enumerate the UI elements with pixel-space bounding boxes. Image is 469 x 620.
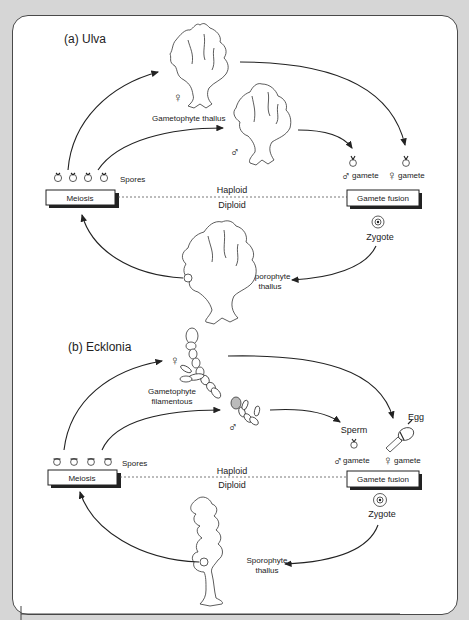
male-gamete-icon-ulva [350, 156, 357, 166]
female-symbol-ulva: ♀ [173, 90, 183, 105]
zygote-label-ulva: Zygote [366, 232, 394, 242]
sporophyte-label-ecklonia-1: Sporophyte [247, 556, 288, 565]
arrow-male-to-sperm [270, 410, 340, 423]
panel-ecklonia: (b) Ecklonia ♀ Gametophyte filamentous [48, 328, 424, 606]
spores-label-ecklonia: Spores [122, 459, 147, 468]
panel-ulva: (a) Ulva ♀ Gametophyte thallus ♂ Spores … [46, 24, 425, 324]
arrow-sporophyte-to-meiosis [82, 215, 183, 278]
sperm-icon [351, 439, 357, 448]
spores-ulva [54, 173, 107, 182]
meiosis-label-ecklonia: Meiosis [68, 474, 95, 483]
female-symbol-ecklonia: ♀ [170, 353, 180, 368]
male-gamete-label-ulva: gamete [352, 171, 379, 180]
sporangium-icon-ulva [184, 274, 192, 282]
sporophyte-thallus-icon-ulva [182, 221, 256, 324]
meiosis-label-ulva: Meiosis [66, 194, 93, 203]
gamete-fusion-label-ecklonia: Gamete fusion [357, 475, 409, 484]
spores-label-ulva: Spores [120, 175, 145, 184]
male-gamete-symbol-ulva: ♂ [341, 168, 351, 183]
arrow-zygote-to-sporophyte [292, 246, 376, 280]
sporophyte-thallus-icon-ecklonia [191, 497, 223, 606]
zygote-icon-ulva [372, 216, 384, 228]
male-gamete-symbol-ecklonia: ♂ [333, 453, 343, 468]
arrow-spore-to-female-ecklonia [64, 361, 162, 450]
haploid-label-ecklonia: Haploid [217, 466, 248, 476]
arrow-spore-to-female [68, 72, 158, 170]
arrow-zygote-to-sporophyte-ecklonia [285, 525, 378, 564]
sporophyte-label-ulva-2: thallus [258, 282, 281, 291]
haploid-label-ulva: Haploid [217, 185, 248, 195]
sperm-label: Sperm [341, 425, 368, 435]
gamete-fusion-label-ulva: Gamete fusion [357, 194, 409, 203]
zygote-label-ecklonia: Zygote [368, 509, 396, 519]
male-symbol-ulva: ♂ [230, 144, 240, 159]
zygote-icon-ecklonia [374, 494, 387, 507]
diploid-label-ecklonia: Diploid [218, 480, 246, 490]
spores-ecklonia [54, 459, 112, 466]
diploid-label-ulva: Diploid [218, 200, 246, 210]
male-symbol-ecklonia: ♂ [228, 419, 238, 434]
arrow-male-to-gamete [298, 130, 352, 148]
female-gamete-label-ecklonia: gamete [394, 456, 421, 465]
panel-title-ecklonia: (b) Ecklonia [68, 340, 132, 354]
gametophyte-label-ulva: Gametophyte thallus [152, 114, 225, 123]
panel-title-ulva: (a) Ulva [64, 32, 106, 46]
gametophyte-label-ecklonia-2: filamentous [152, 397, 193, 406]
male-gamete-label-ecklonia: gamete [343, 456, 370, 465]
arrow-spore-to-male [98, 128, 223, 170]
sporangium-icon-ecklonia [200, 558, 208, 566]
female-gamete-icon-ulva [403, 156, 410, 166]
arrow-spore-to-male-ecklonia [102, 410, 220, 450]
gametophyte-label-ecklonia-1: Gametophyte [148, 387, 197, 396]
arrow-female-to-egg [228, 356, 393, 418]
life-cycle-diagram: (a) Ulva ♀ Gametophyte thallus ♂ Spores … [0, 0, 469, 620]
arrow-sporophyte-to-meiosis-ecklonia [80, 492, 199, 562]
female-gamete-symbol-ecklonia: ♀ [383, 453, 393, 468]
egg-icon [386, 420, 416, 452]
female-gamete-symbol-ulva: ♀ [387, 168, 397, 183]
egg-label: Egg [408, 412, 424, 422]
male-gametophyte-thallus-icon [234, 84, 291, 165]
female-gamete-label-ulva: gamete [398, 171, 425, 180]
sporophyte-label-ecklonia-2: thallus [255, 566, 278, 575]
